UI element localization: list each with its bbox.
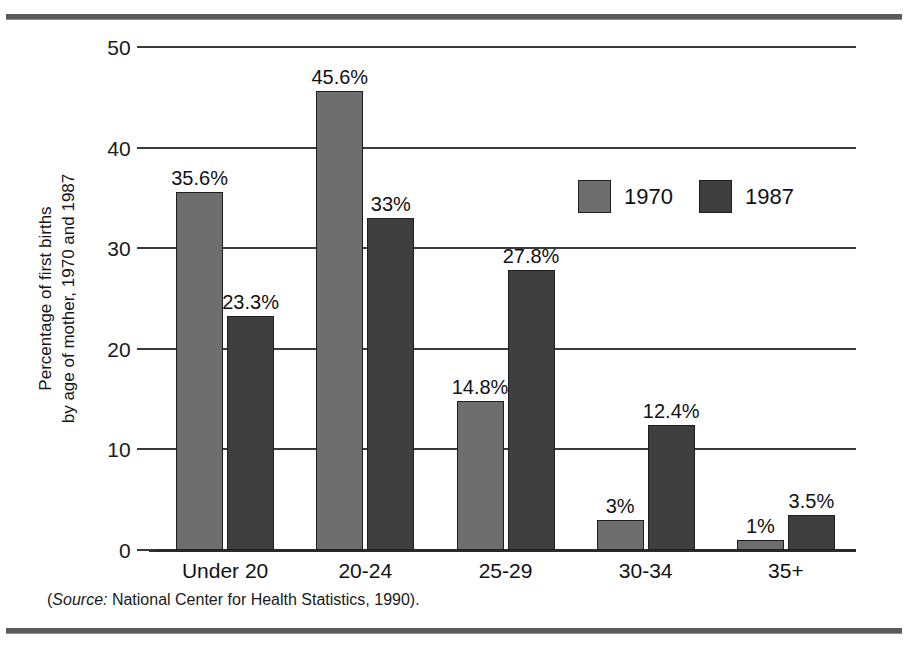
bar-value-label: 35.6% (171, 168, 228, 188)
x-axis-label-25-29: 25-29 (479, 560, 533, 581)
source-text: National Center for Health Statistics, 1… (107, 591, 419, 608)
y-axis-tick (137, 448, 155, 450)
y-axis-tick (137, 348, 155, 350)
top-rule (6, 14, 902, 19)
x-axis-label-35+: 35+ (768, 560, 804, 581)
y-axis-tick (137, 46, 155, 48)
y-axis-title: Percentage of first births by age of mot… (30, 47, 86, 550)
y-axis-tick (137, 247, 155, 249)
bar-value-label: 3% (606, 496, 635, 516)
plot-area: 01020304050 35.6%23.3%45.6%33%14.8%27.8%… (155, 47, 856, 550)
source-word: Source: (52, 591, 107, 608)
gridline (155, 147, 856, 149)
gridline (155, 46, 856, 48)
legend-item-1970: 1970 (578, 180, 673, 213)
y-axis-tick-label: 30 (107, 238, 131, 259)
bar-value-label: 27.8% (503, 246, 560, 266)
bar-1970-under-20: 35.6% (176, 192, 223, 550)
legend: 1970 1987 (578, 180, 794, 213)
y-axis-tick-label: 40 (107, 137, 131, 158)
y-axis-tick-label: 50 (107, 37, 131, 58)
source-note: (Source: National Center for Health Stat… (47, 592, 420, 608)
bar-1970-35+: 1% (737, 540, 784, 550)
legend-swatch-1970-icon (578, 180, 611, 213)
y-axis-tick-label: 20 (107, 338, 131, 359)
bottom-rule (6, 628, 902, 633)
x-axis-label-30-34: 30-34 (619, 560, 673, 581)
y-axis-tick-label: 0 (119, 540, 131, 561)
figure-bar-chart: Percentage of first births by age of mot… (0, 0, 908, 648)
legend-swatch-1987-icon (699, 180, 732, 213)
bar-value-label: 33% (371, 194, 411, 214)
bar-1987-25-29: 27.8% (508, 270, 555, 550)
bar-value-label: 23.3% (222, 292, 279, 312)
y-axis-tick-label: 10 (107, 439, 131, 460)
y-axis-title-line1: Percentage of first births (36, 206, 55, 390)
y-axis-tick (137, 549, 155, 551)
bar-value-label: 3.5% (789, 491, 835, 511)
bar-1987-20-24: 33% (367, 218, 414, 550)
bar-value-label: 14.8% (452, 377, 509, 397)
legend-item-1987: 1987 (699, 180, 794, 213)
legend-label-1970: 1970 (624, 186, 673, 208)
bar-1970-20-24: 45.6% (316, 91, 363, 550)
bar-1987-30-34: 12.4% (648, 425, 695, 550)
x-axis-label-20-24: 20-24 (338, 560, 392, 581)
bar-1970-30-34: 3% (597, 520, 644, 550)
bar-value-label: 1% (746, 516, 775, 536)
bar-1987-35+: 3.5% (788, 515, 835, 550)
bar-value-label: 12.4% (643, 401, 700, 421)
y-axis-tick (137, 147, 155, 149)
legend-label-1987: 1987 (745, 186, 794, 208)
bar-1987-under-20: 23.3% (227, 316, 274, 550)
bar-value-label: 45.6% (311, 67, 368, 87)
y-axis-title-line2: by age of mother, 1970 and 1987 (59, 174, 78, 424)
bar-1970-25-29: 14.8% (457, 401, 504, 550)
x-axis-label-under-20: Under 20 (182, 560, 268, 581)
